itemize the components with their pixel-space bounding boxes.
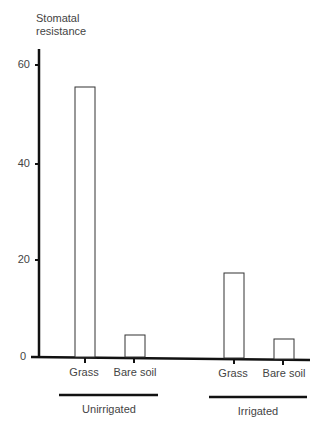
- x-axis-line: [31, 357, 310, 360]
- y-tick-label-60: 60: [10, 58, 30, 70]
- x-label-bare-soil-irrigated: Bare soil: [249, 367, 319, 379]
- x-label-bare-soil-unirrigated: Bare soil: [100, 366, 170, 378]
- bar-unirrigated-grass: [75, 87, 95, 357]
- bar-irrigated-bare-soil: [274, 339, 294, 359]
- bar-irrigated-grass: [224, 273, 244, 358]
- y-tick-label-20: 20: [10, 253, 30, 265]
- y-tick-label-40: 40: [10, 157, 30, 169]
- group-label-unirrigated: Unirrigated: [54, 403, 164, 415]
- y-tick-label-0: 0: [6, 350, 26, 362]
- bar-unirrigated-bare-soil: [125, 335, 145, 357]
- group-label-irrigated: Irrigated: [203, 405, 313, 417]
